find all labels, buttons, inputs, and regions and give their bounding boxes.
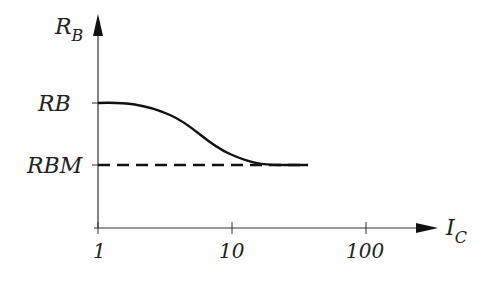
x-tick-label-10: 10 <box>219 239 245 263</box>
y-axis-label: RB <box>54 14 84 45</box>
rbm-label: RBM <box>26 153 83 178</box>
rb-label: RB <box>37 91 71 116</box>
rb-curve <box>98 103 308 165</box>
y-axis-arrow-icon <box>93 14 103 36</box>
rb-vs-ic-chart: RB RB RBM 1 10 100 IC <box>0 0 495 283</box>
x-tick-label-1: 1 <box>93 239 106 263</box>
x-axis-arrow-icon <box>416 223 438 233</box>
x-tick-label-100: 100 <box>346 239 384 263</box>
x-axis-label: IC <box>445 215 467 247</box>
